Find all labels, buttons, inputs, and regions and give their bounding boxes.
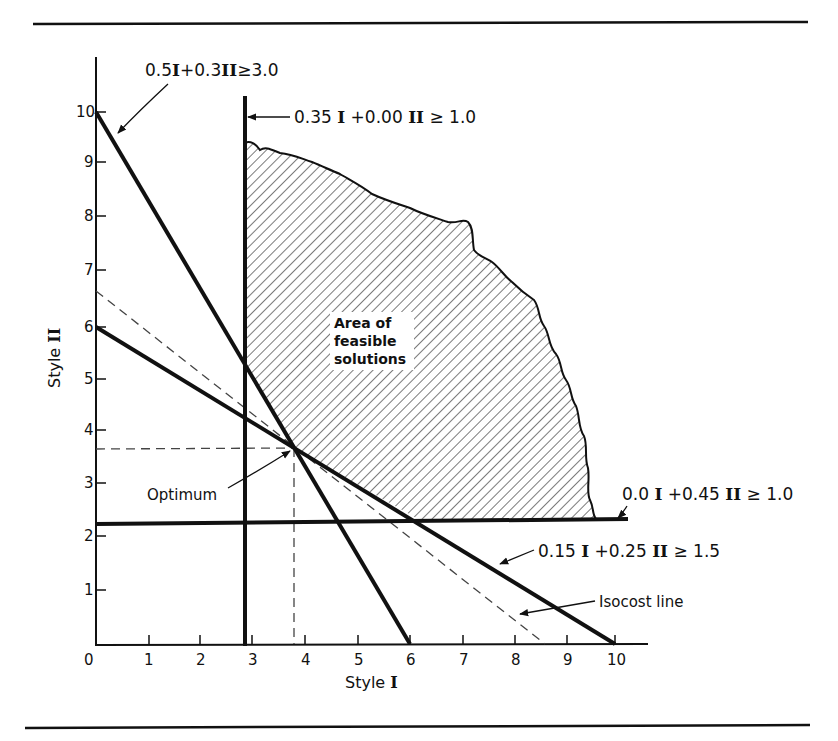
- svg-text:10: 10: [76, 103, 95, 121]
- arrow-isocost: [520, 601, 595, 614]
- svg-text:7: 7: [459, 651, 469, 669]
- optimum-guide-horizontal: [96, 448, 293, 449]
- svg-text:5: 5: [354, 651, 364, 669]
- y-tick-labels: 1 2 3 4 5 6 7 8 9 10: [76, 103, 95, 599]
- svg-text:10: 10: [607, 651, 626, 669]
- svg-text:2: 2: [84, 527, 94, 545]
- svg-text:3: 3: [248, 651, 258, 669]
- label-isocost: Isocost line: [599, 593, 683, 611]
- svg-text:9: 9: [563, 651, 573, 669]
- label-optimum: Optimum: [147, 486, 217, 504]
- svg-text:4: 4: [301, 651, 311, 669]
- feasible-region-chart: Area of feasible solutions 1 2 3 4 5 6 7…: [0, 0, 838, 741]
- arrow-eq3: [618, 506, 627, 518]
- feasible-region: [245, 142, 596, 519]
- label-eq3: 0.0 I +0.45 II ≥ 1.0: [622, 484, 793, 504]
- svg-text:8: 8: [84, 207, 94, 225]
- region-label-line3: solutions: [334, 351, 406, 367]
- svg-text:1: 1: [84, 581, 94, 599]
- x-axis-title: Style I: [345, 673, 398, 692]
- y-axis-title: Style II: [45, 328, 64, 388]
- x-axis: [96, 644, 648, 645]
- label-eq4: 0.15 I +0.25 II ≥ 1.5: [538, 541, 720, 561]
- region-label-line1: Area of: [334, 315, 392, 331]
- svg-text:6: 6: [84, 318, 94, 336]
- label-eq1: 0.5I+0.3II≥3.0: [145, 60, 278, 80]
- svg-text:4: 4: [84, 421, 94, 439]
- svg-text:3: 3: [84, 474, 94, 492]
- bottom-rule: [25, 725, 810, 728]
- top-rule: [33, 22, 808, 24]
- x-tick-labels: 0 1 2 3 4 5 6 7 8 9 10: [84, 651, 626, 669]
- svg-text:6: 6: [406, 651, 416, 669]
- constraint-line-0.45II: [96, 519, 628, 524]
- svg-text:1: 1: [144, 651, 154, 669]
- svg-text:7: 7: [84, 261, 94, 279]
- label-eq2: 0.35 I +0.00 II ≥ 1.0: [294, 107, 476, 127]
- arrow-eq4: [500, 550, 534, 564]
- svg-text:0: 0: [84, 651, 94, 669]
- arrow-optimum: [228, 451, 290, 488]
- svg-text:5: 5: [84, 370, 94, 388]
- svg-text:9: 9: [84, 153, 94, 171]
- arrow-eq1: [118, 84, 168, 133]
- region-label-line2: feasible: [334, 333, 396, 349]
- y-ticks: [96, 112, 106, 590]
- svg-text:8: 8: [511, 651, 521, 669]
- svg-text:2: 2: [196, 651, 206, 669]
